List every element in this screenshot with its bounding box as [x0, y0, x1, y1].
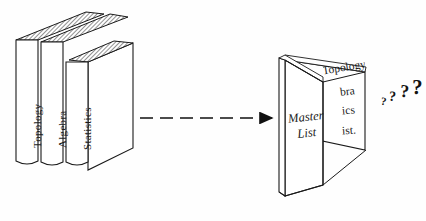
question-mark-4: ? [412, 75, 423, 100]
right-page-line-topology: Topology [323, 58, 365, 77]
right-page-line-mathematics: ics [341, 103, 355, 116]
spine-label-statistics: Statistics [82, 107, 94, 150]
figure-canvas: Topology Algebra Statistics Master List … [0, 0, 426, 221]
question-mark-3: ? [399, 81, 409, 103]
right-page-list: Topology bra ics ist. [323, 52, 365, 157]
spine-label-algebra: Algebra [57, 110, 69, 148]
book-statistics [66, 41, 133, 170]
right-page-line-algebra: bra [339, 84, 355, 98]
open-book-spine-fold [279, 58, 285, 196]
spine-label-topology: Topology [32, 104, 44, 148]
right-page-line-statistics: ist. [342, 124, 357, 137]
statistics-cover-face [88, 43, 133, 170]
master-list-text: Master List [287, 108, 324, 143]
